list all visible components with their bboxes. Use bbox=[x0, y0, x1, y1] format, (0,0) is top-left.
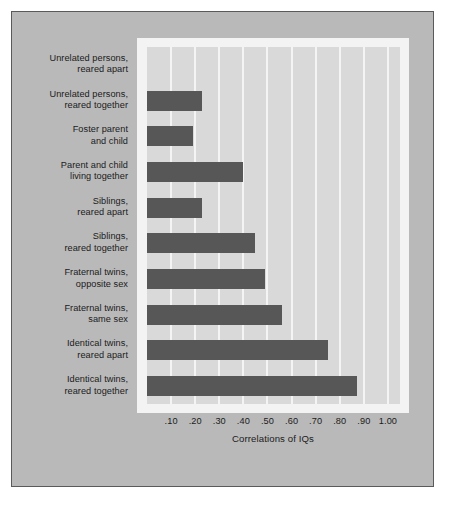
bar[interactable] bbox=[147, 305, 282, 325]
bar-row[interactable] bbox=[147, 269, 400, 289]
category-label: Fraternal twins,opposite sex bbox=[12, 267, 128, 290]
x-tick-label: .60 bbox=[285, 416, 298, 426]
category-label-line1: Identical twins, bbox=[12, 374, 128, 386]
bar-row[interactable] bbox=[147, 376, 400, 396]
category-label-line1: Siblings, bbox=[12, 231, 128, 243]
x-tick-label: .10 bbox=[165, 416, 178, 426]
chart-card: Unrelated persons,reared apartUnrelated … bbox=[11, 11, 434, 487]
category-axis: Unrelated persons,reared apartUnrelated … bbox=[12, 38, 134, 413]
category-label: Parent and childliving together bbox=[12, 160, 128, 183]
category-label: Unrelated persons,reared together bbox=[12, 89, 128, 112]
bar[interactable] bbox=[147, 162, 243, 182]
plot-area bbox=[147, 47, 400, 404]
category-label-line2: living together bbox=[12, 171, 128, 183]
bar-row[interactable] bbox=[147, 340, 400, 360]
category-label: Siblings,reared together bbox=[12, 231, 128, 254]
category-label-line2: and child bbox=[12, 136, 128, 148]
x-tick-label: 1.00 bbox=[379, 416, 397, 426]
bar-row[interactable] bbox=[147, 126, 400, 146]
x-tick-label: .30 bbox=[213, 416, 226, 426]
bar-row[interactable] bbox=[147, 198, 400, 218]
category-label-line1: Identical twins, bbox=[12, 338, 128, 350]
x-tick-label: .20 bbox=[189, 416, 202, 426]
x-tick-label: .90 bbox=[357, 416, 370, 426]
bar[interactable] bbox=[147, 233, 255, 253]
category-label-line1: Fraternal twins, bbox=[12, 303, 128, 315]
category-label-line2: reared together bbox=[12, 386, 128, 398]
category-label-line2: reared together bbox=[12, 100, 128, 112]
category-label-line1: Unrelated persons, bbox=[12, 89, 128, 101]
category-label-line1: Unrelated persons, bbox=[12, 53, 128, 65]
category-label-line2: same sex bbox=[12, 314, 128, 326]
x-axis-title: Correlations of IQs bbox=[137, 433, 409, 444]
category-label-line2: reared together bbox=[12, 243, 128, 255]
bar[interactable] bbox=[147, 269, 265, 289]
bar-row[interactable] bbox=[147, 91, 400, 111]
category-label-line1: Parent and child bbox=[12, 160, 128, 172]
category-label-line2: reared apart bbox=[12, 64, 128, 76]
bar-row[interactable] bbox=[147, 55, 400, 75]
category-label-line1: Foster parent bbox=[12, 124, 128, 136]
x-tick-label: .40 bbox=[237, 416, 250, 426]
bar[interactable] bbox=[147, 198, 202, 218]
category-label-line2: opposite sex bbox=[12, 279, 128, 291]
x-tick-label: .80 bbox=[333, 416, 346, 426]
bar-row[interactable] bbox=[147, 233, 400, 253]
x-tick-label: .50 bbox=[261, 416, 274, 426]
plot-frame bbox=[137, 38, 409, 413]
category-label: Siblings,reared apart bbox=[12, 196, 128, 219]
category-label: Foster parentand child bbox=[12, 124, 128, 147]
category-label-line1: Siblings, bbox=[12, 196, 128, 208]
bar-row[interactable] bbox=[147, 305, 400, 325]
bar-row[interactable] bbox=[147, 162, 400, 182]
bar[interactable] bbox=[147, 340, 328, 360]
x-axis-ticks: .10.20.30.40.50.60.70.80.901.00 bbox=[137, 416, 409, 432]
category-label: Identical twins,reared together bbox=[12, 374, 128, 397]
figure-root: Unrelated persons,reared apartUnrelated … bbox=[0, 0, 449, 515]
category-label: Identical twins,reared apart bbox=[12, 338, 128, 361]
category-label-line2: reared apart bbox=[12, 350, 128, 362]
bar[interactable] bbox=[147, 91, 202, 111]
bar[interactable] bbox=[147, 376, 357, 396]
x-tick-label: .70 bbox=[309, 416, 322, 426]
bar[interactable] bbox=[147, 126, 193, 146]
category-label: Unrelated persons,reared apart bbox=[12, 53, 128, 76]
bars-layer bbox=[147, 47, 400, 404]
category-label: Fraternal twins,same sex bbox=[12, 303, 128, 326]
category-label-line1: Fraternal twins, bbox=[12, 267, 128, 279]
category-label-line2: reared apart bbox=[12, 207, 128, 219]
